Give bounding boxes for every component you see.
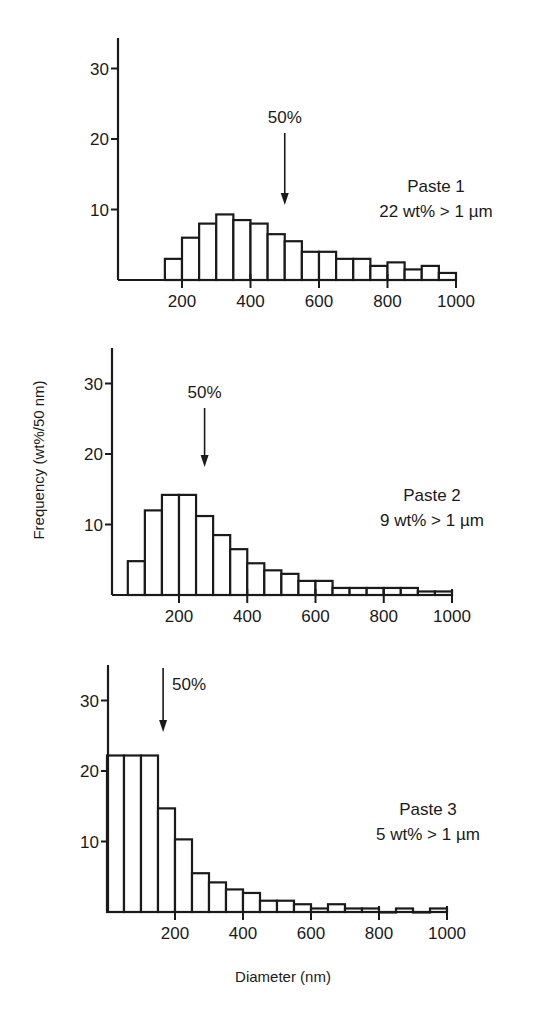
x-tick-label: 200 (165, 607, 193, 626)
paste-coarse-fraction-label: 22 wt% > 1 µm (379, 202, 492, 221)
x-tick-label: 200 (168, 292, 196, 311)
down-arrow-icon (281, 193, 289, 205)
histogram-bar (124, 755, 141, 912)
x-tick-label: 600 (305, 292, 333, 311)
y-tick-label: 30 (84, 375, 103, 394)
paste-name-label: Paste 2 (403, 486, 461, 505)
x-tick-label: 600 (297, 924, 325, 943)
median-label: 50% (268, 108, 302, 127)
x-tick-label: 1000 (433, 607, 471, 626)
y-axis-title: Frequency (wt%/50 nm) (30, 380, 47, 539)
histogram-bar (294, 904, 311, 912)
histogram-bar (145, 510, 162, 595)
histogram-bar (192, 873, 209, 912)
x-tick-label: 400 (233, 607, 261, 626)
histogram-bar (213, 535, 230, 595)
y-tick-label: 20 (84, 445, 103, 464)
median-label: 50% (172, 675, 206, 694)
histogram-bar (328, 904, 345, 912)
histogram-bar (247, 563, 264, 595)
paste-name-label: Paste 3 (399, 800, 457, 819)
histogram-bar (230, 549, 247, 595)
histogram-bar (405, 269, 422, 280)
histogram-bar (422, 266, 439, 280)
y-tick-label: 30 (80, 692, 99, 711)
histogram-bars (128, 495, 452, 595)
x-tick-label: 1000 (428, 924, 466, 943)
histogram-bar (196, 516, 213, 595)
histogram-bar (162, 495, 179, 595)
histogram-bar (165, 259, 182, 280)
histogram-bar (319, 252, 336, 280)
histogram-bar (298, 581, 315, 595)
histogram-bar (260, 901, 277, 912)
x-axis-title: Diameter (nm) (235, 968, 331, 985)
histogram-bar (179, 495, 196, 595)
y-tick-label: 10 (80, 833, 99, 852)
histogram-bar (336, 259, 353, 280)
histogram-bar (370, 266, 387, 280)
histogram-bar (209, 882, 226, 912)
histogram-bar (353, 259, 370, 280)
histogram-bar (388, 262, 405, 280)
y-tick-label: 10 (84, 516, 103, 535)
histogram-bar (268, 234, 285, 280)
x-tick-label: 1000 (437, 292, 475, 311)
y-tick-label: 10 (90, 201, 109, 220)
x-tick-label: 400 (229, 924, 257, 943)
histogram-bar (216, 214, 233, 280)
histogram-bar (107, 755, 124, 912)
histogram-bar (175, 839, 192, 912)
x-tick-label: 800 (365, 924, 393, 943)
y-tick-label: 30 (90, 60, 109, 79)
figure-canvas: 102030200400600800100050%Paste 122 wt% >… (0, 0, 549, 1024)
y-tick-label: 20 (80, 762, 99, 781)
histogram-bar (251, 224, 268, 280)
histogram-bar (233, 220, 250, 280)
paste-name-label: Paste 1 (407, 177, 465, 196)
x-tick-label: 400 (236, 292, 264, 311)
x-tick-label: 800 (373, 292, 401, 311)
x-tick-label: 600 (301, 607, 329, 626)
histogram-bars (165, 214, 456, 280)
panel-paste-2: 102030200400600800100050%Paste 29 wt% > … (84, 348, 484, 626)
x-tick-label: 800 (370, 607, 398, 626)
histogram-figure: 102030200400600800100050%Paste 122 wt% >… (0, 0, 549, 1024)
y-tick-label: 20 (90, 130, 109, 149)
histogram-bar (226, 889, 243, 912)
histogram-bar (182, 238, 199, 280)
histogram-bar (199, 224, 216, 280)
median-label: 50% (188, 383, 222, 402)
x-tick-label: 200 (161, 924, 189, 943)
histogram-bar (316, 581, 333, 595)
histogram-bar (264, 570, 281, 595)
histogram-bar (281, 574, 298, 595)
paste-coarse-fraction-label: 9 wt% > 1 µm (380, 511, 484, 530)
down-arrow-icon (159, 720, 167, 732)
histogram-bar (277, 901, 294, 912)
histogram-bar (128, 561, 145, 595)
histogram-bar (243, 893, 260, 912)
histogram-bar (158, 808, 175, 912)
panel-paste-3: 102030200400600800100050%Paste 35 wt% > … (80, 665, 480, 943)
histogram-bar (141, 755, 158, 912)
histogram-bar (302, 252, 319, 280)
paste-coarse-fraction-label: 5 wt% > 1 µm (376, 825, 480, 844)
panel-paste-1: 102030200400600800100050%Paste 122 wt% >… (90, 38, 493, 311)
histogram-bar (285, 241, 302, 280)
down-arrow-icon (201, 455, 209, 467)
